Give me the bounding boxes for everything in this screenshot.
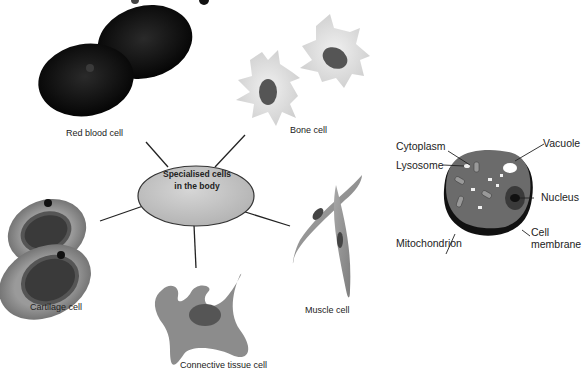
hub-label-line1: Specialised cells (144, 168, 250, 180)
bone-cell-image (236, 14, 370, 126)
cytoplasm-label: Cytoplasm (396, 140, 446, 152)
red-blood-cell-image (32, 0, 200, 124)
lysosome-label: Lysosome (396, 159, 443, 171)
cell-membrane-label-line2: membrane (531, 238, 581, 250)
nucleus-label: Nucleus (541, 191, 579, 203)
red-blood-cell-label: Red blood cell (66, 128, 123, 138)
muscle-cell-label: Muscle cell (305, 305, 350, 315)
cartilage-cell-image (0, 188, 103, 334)
cell-membrane-label-line1: Cell (531, 226, 549, 238)
hub-label: Specialised cells in the body (144, 168, 250, 192)
hub-label-line2: in the body (144, 180, 250, 192)
diagram-canvas (0, 0, 587, 380)
bone-cell-label: Bone cell (290, 125, 327, 135)
muscle-cell-image (293, 175, 362, 298)
connective-tissue-cell-label: Connective tissue cell (180, 360, 267, 370)
cartilage-cell-label: Cartilage cell (30, 302, 82, 312)
mitochondrion-label: Mitochondrion (396, 237, 462, 249)
specialised-cells-diagram: Specialised cells in the body Red blood … (0, 0, 587, 380)
vacuole-label: Vacuole (543, 137, 580, 149)
